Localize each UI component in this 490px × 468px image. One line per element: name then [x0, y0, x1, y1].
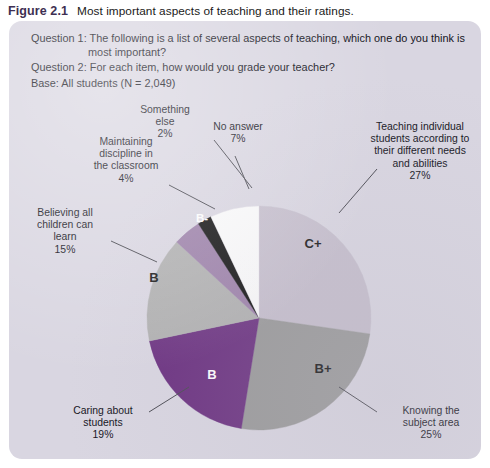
leader-line-something-else	[214, 140, 252, 188]
callout-no-answer: No answer 7%	[196, 121, 280, 145]
figure-panel: Question 1: The following is a list of s…	[9, 21, 481, 459]
pie-slice-group	[147, 206, 371, 430]
source-note	[18, 462, 478, 468]
pie-slice-C-minusplus-teaching-individual-students-according-t[interactable]	[259, 206, 371, 334]
pie-chart: C+ B+ B B B- Something else 2% No answer…	[9, 21, 481, 459]
callout-caring-about-students: Caring about students 19%	[51, 405, 155, 442]
figure-title: Most important aspects of teaching and t…	[77, 4, 354, 18]
figure-number: Figure 2.1	[8, 4, 68, 18]
leader-line-maintaining-discipline	[169, 185, 215, 209]
callout-knowing-subject-area: Knowing the subject area 25%	[381, 405, 481, 442]
leader-line-believing-all-children	[111, 241, 157, 262]
callout-teaching-individual: Teaching individual students according t…	[361, 121, 479, 182]
figure-caption: Figure 2.1 Most important aspects of tea…	[8, 2, 482, 20]
pie-slice-B-minusplus-knowing-the-subject-area[interactable]	[241, 318, 370, 430]
callout-maintaining-discipline: Maintaining discipline in the classroom …	[71, 136, 181, 185]
leader-line-knowing-subject-area	[339, 387, 377, 412]
leader-line-no-answer	[235, 156, 249, 189]
callout-believing-all-children: Believing all children can learn 15%	[13, 207, 117, 256]
